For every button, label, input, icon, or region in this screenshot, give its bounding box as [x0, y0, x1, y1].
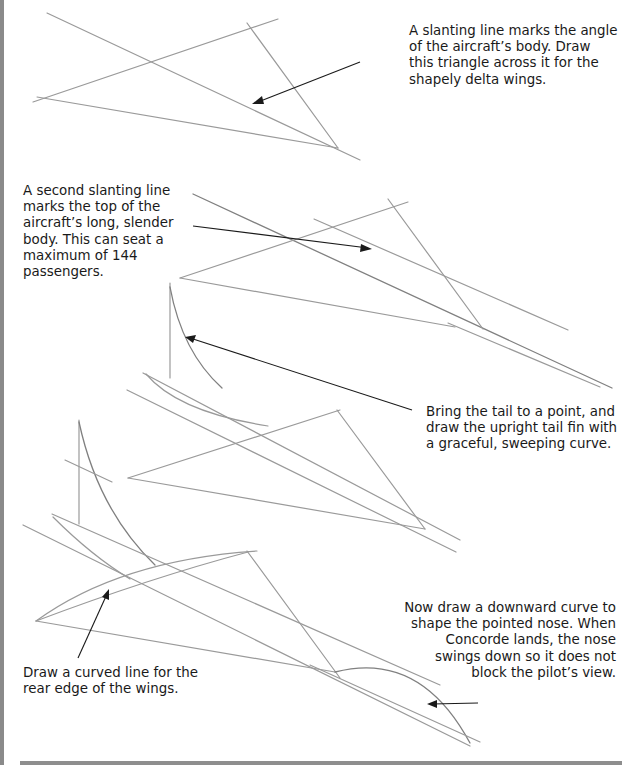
step-1-sketch	[33, 13, 360, 160]
step-2-pointer	[193, 226, 372, 252]
step-5-caption: Draw a curved line for the rear edge of …	[23, 665, 203, 697]
step-1-pointer	[252, 62, 360, 104]
step-1-caption: A slanting line marks the angle of the a…	[409, 23, 619, 88]
step-3-sketch	[127, 283, 460, 552]
step-3-pointer	[185, 335, 412, 410]
step-4-caption: Now draw a downward curve to shape the p…	[398, 600, 616, 681]
step-2-caption: A second slanting line marks the top of …	[23, 183, 213, 280]
step-2-sketch	[180, 194, 612, 388]
step-5-pointer	[78, 589, 109, 658]
step-4-pointer	[427, 700, 478, 708]
step-3-caption: Bring the tail to a point, and draw the …	[426, 404, 622, 453]
